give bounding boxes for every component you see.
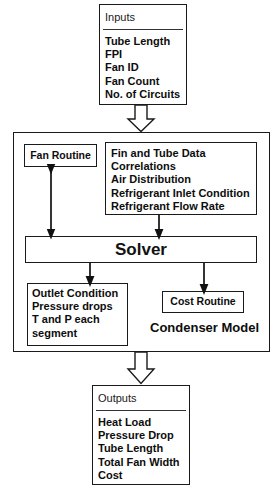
inputs-list: Tube Length FPI Fan ID Fan Count No. of …: [105, 35, 180, 101]
condenser-model-label: Condenser Model: [150, 320, 259, 335]
outputs-header: Outputs: [98, 392, 137, 404]
cost-routine-label: Cost Routine: [162, 295, 244, 307]
outlet-condition-list: Outlet Condition Pressure drops T and P …: [32, 287, 118, 340]
outputs-list: Heat Load Pressure Drop Tube Length Tota…: [98, 416, 180, 482]
solver-label: Solver: [25, 240, 257, 260]
inputs-divider: [103, 29, 183, 30]
fan-routine-label: Fan Routine: [24, 149, 97, 161]
flowchart-canvas: Inputs Tube Length FPI Fan ID Fan Count …: [0, 0, 277, 489]
list-item: Tube Length: [98, 442, 180, 455]
list-item: Pressure Drop: [98, 429, 180, 442]
outputs-divider: [96, 410, 186, 411]
list-item: T and P each: [32, 313, 118, 326]
list-item: FPI: [105, 48, 180, 61]
list-item: Heat Load: [98, 416, 180, 429]
list-item: Cost: [98, 469, 180, 482]
list-item: Correlations: [111, 160, 250, 173]
list-item: Refrigerant Inlet Condition: [111, 187, 250, 200]
inputs-to-condenser-arrow: [128, 105, 154, 132]
list-item: segment: [32, 327, 118, 340]
model-data-list: Fin and Tube Data Correlations Air Distr…: [111, 147, 250, 213]
list-item: Pressure drops: [32, 300, 118, 313]
list-item: Total Fan Width: [98, 456, 180, 469]
list-item: Tube Length: [105, 35, 180, 48]
condenser-to-outputs-arrow: [128, 352, 154, 384]
list-item: Outlet Condition: [32, 287, 118, 300]
list-item: Fin and Tube Data: [111, 147, 250, 160]
list-item: No. of Circuits: [105, 88, 180, 101]
list-item: Fan Count: [105, 75, 180, 88]
list-item: Air Distribution: [111, 173, 250, 186]
list-item: Fan ID: [105, 61, 180, 74]
inputs-header: Inputs: [105, 11, 135, 23]
list-item: Refrigerant Flow Rate: [111, 200, 250, 213]
